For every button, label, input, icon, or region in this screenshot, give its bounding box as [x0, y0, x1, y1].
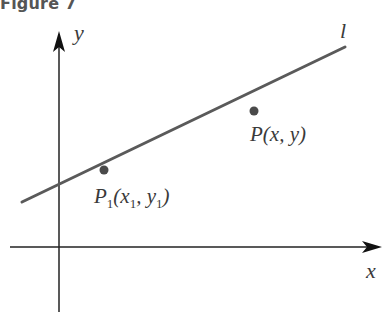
y-axis [53, 31, 65, 312]
point-p [250, 107, 259, 116]
line-label: l [340, 18, 346, 43]
diagram-canvas: y x l P(x, y) P1(x1, y1) [0, 0, 382, 326]
x-axis-label: x [365, 258, 376, 283]
point-p1 [100, 166, 109, 175]
x-axis [10, 241, 382, 253]
point-p-label: P(x, y) [249, 122, 306, 146]
point-p1-label: P1(x1, y1) [93, 184, 169, 211]
y-axis-label: y [72, 20, 84, 45]
